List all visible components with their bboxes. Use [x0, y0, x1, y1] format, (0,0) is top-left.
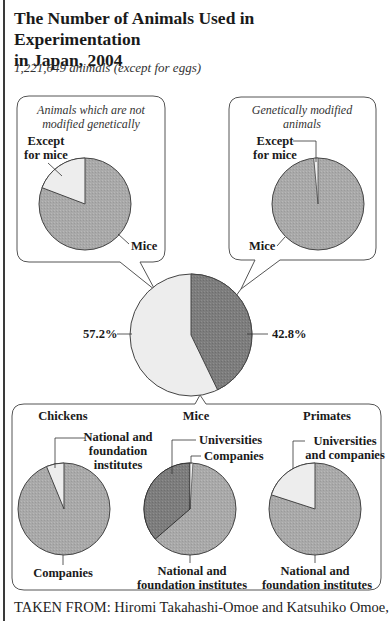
label-national-line2: foundation institutes — [262, 578, 372, 592]
panel-genetically-modified: Genetically modified animals Except for … — [229, 97, 376, 300]
mice-title: Mice — [183, 409, 210, 423]
pie-mice — [144, 463, 236, 555]
chickens-title: Chickens — [38, 409, 87, 423]
label-except-line1: Except — [257, 134, 295, 148]
label-except-line1: Except — [28, 134, 66, 148]
chart-canvas: Animals which are not modified genetical… — [0, 0, 389, 621]
label-national-line2: foundation — [89, 444, 147, 458]
label-uc-line2: and companies — [305, 448, 385, 462]
label-national-line3: institutes — [94, 458, 143, 472]
panel-not-modified: Animals which are not modified genetical… — [17, 96, 165, 300]
label-mice: Mice — [131, 239, 158, 253]
pie-not-modified — [39, 158, 131, 250]
primates-title: Primates — [303, 409, 351, 423]
pie-total — [130, 274, 252, 396]
label-pct-left: 57.2% — [83, 327, 117, 341]
label-pct-right: 42.8% — [272, 327, 306, 341]
panel-title-line2: modified genetically — [42, 117, 140, 131]
label-universities: Universities — [199, 433, 262, 447]
panel-title-line1: Genetically modified — [252, 103, 353, 117]
label-national-line1: National and — [280, 564, 349, 578]
label-mice: Mice — [249, 239, 276, 253]
label-except-line2: for mice — [24, 148, 68, 162]
panel-title-line1: Animals which are not — [36, 103, 146, 117]
panel-by-species: Chickens National and foundation institu… — [12, 395, 385, 592]
label-uc-line1: Universities — [313, 434, 376, 448]
label-national-line1: National and — [83, 430, 152, 444]
label-national-line2: foundation institutes — [137, 578, 247, 592]
pie-primates — [269, 463, 361, 555]
label-companies: Companies — [204, 449, 264, 463]
label-except-line2: for mice — [253, 148, 297, 162]
label-national-line1: National and — [157, 564, 226, 578]
label-companies: Companies — [33, 566, 93, 580]
pie-genetically-modified — [272, 158, 364, 250]
pie-chickens — [18, 463, 110, 555]
source-citation: TAKEN FROM: Hiromi Takahashi-Omoe and Ka… — [14, 599, 389, 616]
panel-title-line2: animals — [283, 117, 321, 131]
